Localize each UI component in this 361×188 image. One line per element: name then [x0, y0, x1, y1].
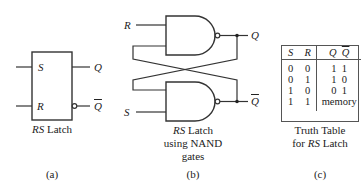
- latch-input-r-label: R: [37, 100, 44, 112]
- table-row: 11memory: [282, 96, 361, 111]
- truth-table-header: S R Q Q: [282, 46, 361, 60]
- latch-input-s-label: S: [38, 61, 44, 73]
- panel-c-label: (c): [305, 168, 335, 180]
- nand-output-q-label: Q: [251, 29, 259, 41]
- panel-a-label: (a): [37, 168, 67, 180]
- rs-latch-block: [16, 52, 90, 120]
- nand-output-qbar-label: Q: [251, 95, 259, 107]
- panel-b-caption: RS Latch using NAND gates: [158, 124, 228, 163]
- nand-latch: [133, 16, 248, 121]
- nand-input-s-label: S: [124, 106, 130, 118]
- panel-c-caption: Truth Table for RS Latch: [280, 124, 360, 150]
- truth-table: S R Q Q 001 1 011 0 100 1 11memory: [282, 46, 361, 111]
- panel-a-caption: RS Latch: [22, 123, 82, 135]
- header-outputs: Q Q: [317, 46, 361, 60]
- table-row: 011 0: [282, 74, 361, 85]
- latch-output-qbar-label: Q: [94, 100, 102, 112]
- top-nand-gate: [166, 16, 215, 55]
- header-s: S: [282, 46, 299, 60]
- latch-output-q-label: Q: [94, 61, 102, 73]
- header-r: R: [299, 46, 317, 60]
- table-row: 100 1: [282, 85, 361, 96]
- bottom-nand-gate: [166, 82, 215, 121]
- table-row: 001 1: [282, 60, 361, 75]
- panel-b-label: (b): [178, 168, 208, 180]
- nand-input-r-label: R: [124, 19, 131, 31]
